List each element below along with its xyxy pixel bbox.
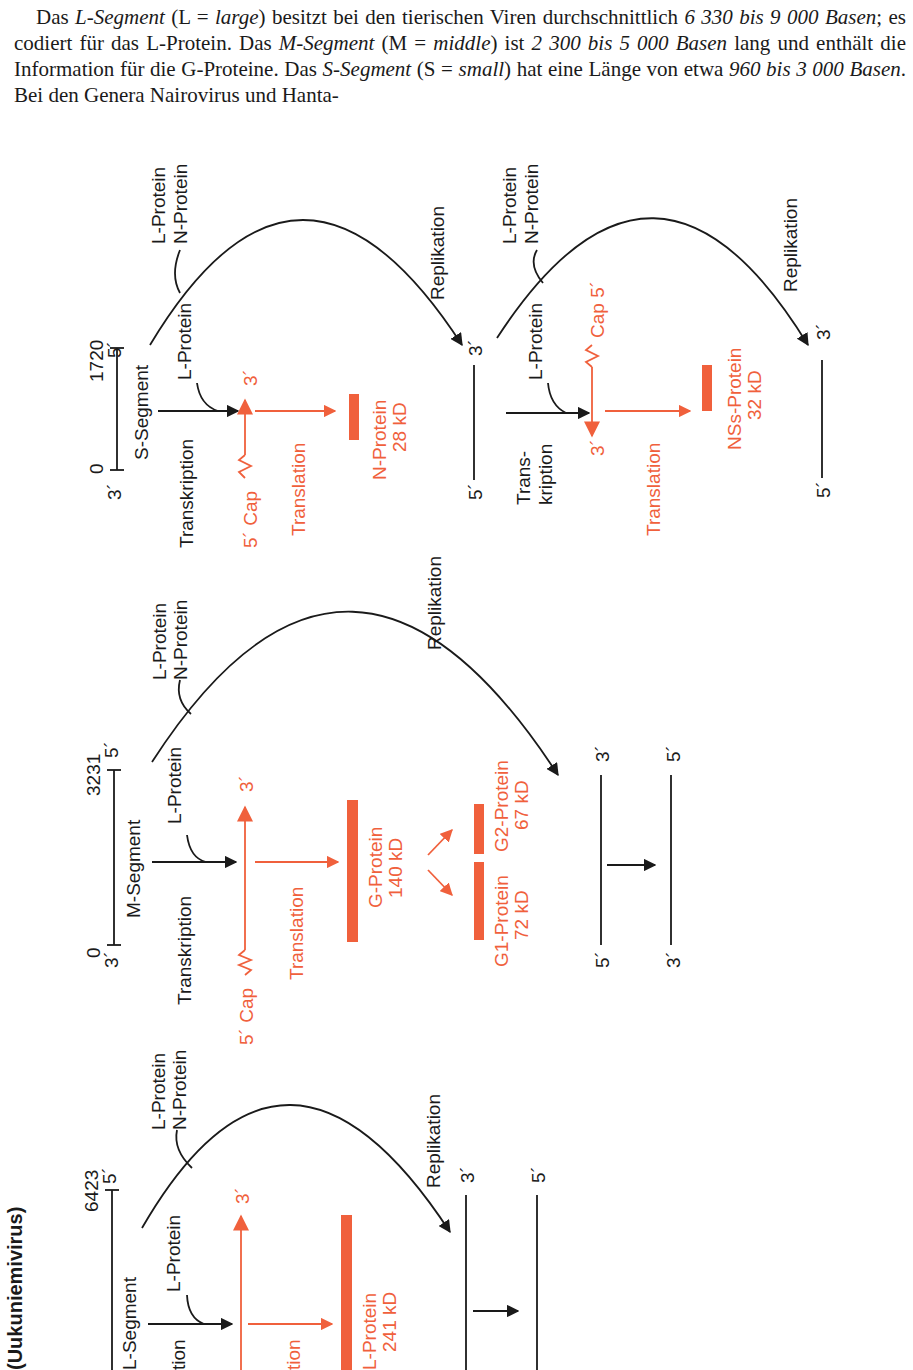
- s-segment-label: S-Segment: [131, 364, 152, 460]
- m-precursor-label: G-Protein: [365, 827, 386, 908]
- l-translation-label: tion: [283, 1339, 304, 1370]
- m-cleavage-arrow-g2: [428, 830, 452, 855]
- m-cleavage-arrow-g1: [428, 870, 452, 895]
- s-copy-five-prime: 5´: [465, 483, 486, 500]
- s-segment-ambisense-diagram: L-Protein N-Protein Replikation L-Protei…: [497, 164, 834, 536]
- m-copy-b-five-prime: 5´: [663, 745, 684, 762]
- m-g2-label: G2-Protein: [491, 760, 512, 852]
- m-g1-size: 72 kD: [511, 890, 532, 940]
- s-copy-three-prime: 3´: [465, 339, 486, 356]
- s2-cap-label: Cap 5´: [587, 281, 608, 338]
- m-copy-a-three-prime: 3´: [592, 745, 613, 762]
- s-polymerase-label: L-Protein: [174, 303, 195, 380]
- m-copy-b-three-prime: 3´: [663, 951, 684, 968]
- s-n-protein-bar: [349, 394, 359, 440]
- m-mrna-three-prime: 3´: [236, 775, 257, 792]
- l-transcription-label: tion: [168, 1339, 189, 1370]
- s-replication-protein-n: N-Protein: [170, 164, 191, 244]
- m-precursor-size: 140 kD: [385, 838, 406, 898]
- s2-transcription-label-2: kription: [535, 444, 556, 505]
- l-mrna-three-prime: 3´: [232, 1187, 253, 1204]
- l-replication-protein-n: N-Protein: [169, 1050, 190, 1130]
- m-copy-a-five-prime: 5´: [592, 951, 613, 968]
- m-polymerase-label: L-Protein: [164, 747, 185, 824]
- s2-copy-five-prime: 5´: [813, 481, 834, 498]
- m-g2-protein-bar: [474, 804, 484, 854]
- s-cap-zigzag: [239, 455, 251, 478]
- s-protein-size: 28 kD: [389, 402, 410, 452]
- genus-label: (Uukuniemivirus): [4, 1207, 26, 1370]
- m-cap-label: 5´ Cap: [236, 988, 257, 1045]
- l-polymerase-hook: [187, 1295, 204, 1324]
- s2-polymerase-label: L-Protein: [525, 303, 546, 380]
- m-translation-label: Translation: [286, 887, 307, 980]
- s2-protein-label: NSs-Protein: [724, 348, 745, 450]
- s-cap-label: 5´ Cap: [240, 491, 261, 548]
- l-copy-b-five-prime: 5´: [528, 1166, 549, 1183]
- s-polymerase-hook: [197, 383, 218, 411]
- l-segment-diagram: (Uukuniemivirus) 6423 5´ L-Segment L-Pro…: [4, 1050, 549, 1370]
- s-segment-genome: [110, 348, 124, 470]
- s2-polymerase-hook: [548, 383, 566, 413]
- s2-replication-protein-n: N-Protein: [521, 164, 542, 244]
- m-g1-label: G1-Protein: [491, 875, 512, 967]
- s-three-prime-label: 3´: [104, 483, 125, 500]
- l-five-prime-label: 5´: [99, 1167, 120, 1184]
- m-replication-protein-n: N-Protein: [170, 600, 191, 680]
- s2-transcription-label-1: Trans-: [513, 451, 534, 505]
- s-segment-diagram: 0 3´ 1720 5´ S-Segment L-Protein N-Prote…: [86, 164, 486, 548]
- s2-protein-size: 32 kD: [744, 370, 765, 420]
- l-replication-label: Replikation: [423, 1094, 444, 1188]
- s2-cap-zigzag: [586, 345, 598, 367]
- s2-translation-label: Translation: [643, 443, 664, 536]
- m-end-position: 3231: [83, 754, 104, 796]
- l-copy-a-three-prime: 3´: [457, 1166, 478, 1183]
- s2-mrna-three-prime: 3´: [587, 439, 608, 456]
- s-protein-label: N-Protein: [369, 400, 390, 480]
- s-replication-protein-l: L-Protein: [148, 167, 169, 244]
- l-segment-label: L-Segment: [119, 1276, 140, 1370]
- m-replication-label: Replikation: [424, 556, 445, 650]
- m-replication-protein-l: L-Protein: [149, 603, 170, 680]
- s-translation-label: Translation: [288, 443, 309, 536]
- bunyavirus-replication-diagram: 0 3´ 1720 5´ S-Segment L-Protein N-Prote…: [0, 0, 913, 1370]
- s-replication-label: Replikation: [427, 206, 448, 300]
- m-five-prime-label: 5´: [101, 741, 122, 758]
- s-five-prime-label: 5´: [104, 341, 125, 358]
- m-replication-arrow: [152, 612, 558, 775]
- m-g-protein-bar: [347, 800, 358, 942]
- s-start-position: 0: [86, 463, 107, 474]
- m-g1-protein-bar: [474, 862, 484, 940]
- s2-nss-protein-bar: [702, 365, 712, 411]
- l-replication-protein-l: L-Protein: [148, 1053, 169, 1130]
- m-cap-zigzag: [239, 950, 251, 975]
- s2-replication-label: Replikation: [780, 198, 801, 292]
- l-replication-protein-hook: [176, 1130, 192, 1168]
- s2-copy-three-prime: 3´: [813, 323, 834, 340]
- s-transcription-label: Transkription: [176, 439, 197, 548]
- m-polymerase-hook: [187, 835, 206, 862]
- l-polymerase-label: L-Protein: [163, 1215, 184, 1292]
- m-segment-genome: [107, 770, 121, 945]
- s-mrna-three-prime: 3´: [240, 369, 261, 386]
- s-replication-arrow: [150, 220, 462, 345]
- m-segment-label: M-Segment: [123, 819, 144, 918]
- m-segment-diagram: 0 3´ 3231 5´ M-Segment L-Protein N-Prote…: [83, 556, 684, 1045]
- l-protein-bar: [341, 1215, 352, 1370]
- m-three-prime-label: 3´: [101, 951, 122, 968]
- l-segment-genome: [105, 1190, 119, 1370]
- s-replication-protein-hook: [175, 250, 180, 293]
- l-protein-label: L-Protein: [359, 1293, 380, 1370]
- l-protein-size: 241 kD: [379, 1292, 400, 1352]
- s2-replication-protein-l: L-Protein: [499, 167, 520, 244]
- m-transcription-label: Transkription: [174, 896, 195, 1005]
- m-g2-size: 67 kD: [511, 780, 532, 830]
